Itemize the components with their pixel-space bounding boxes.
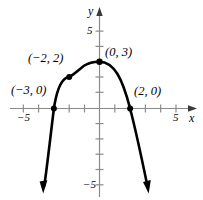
- point-dot--2-2: [66, 74, 72, 80]
- point-label--2-2: (−2, 2): [28, 52, 64, 65]
- curve-group: [40, 62, 151, 194]
- y-tick-label-5: 5: [87, 25, 93, 36]
- curve-arrow-left-icon: [40, 180, 48, 193]
- point-dot-0-3: [96, 59, 102, 65]
- point-dot-2-0: [127, 106, 133, 112]
- y-axis-label: y: [88, 5, 93, 17]
- x-tick-label-5: 5: [173, 112, 179, 123]
- y-tick-label--5: −5: [83, 179, 96, 190]
- marked-points: [51, 59, 133, 112]
- y-axis-arrow-icon: [96, 7, 102, 16]
- point-label-0-3: (0, 3): [105, 46, 132, 59]
- graph-figure: y x 5 −5 −5 5 (−3, 0) (−2, 2) (0, 3) (2,…: [0, 0, 203, 200]
- coordinate-plot: [0, 0, 203, 200]
- x-axis-label: x: [189, 112, 194, 124]
- point-label--3-0: (−3, 0): [11, 84, 47, 97]
- curve-arrow-right-icon: [143, 180, 151, 194]
- point-label-2-0: (2, 0): [134, 85, 161, 98]
- point-dot--3-0: [51, 106, 57, 112]
- x-tick-label--5: −5: [17, 112, 30, 123]
